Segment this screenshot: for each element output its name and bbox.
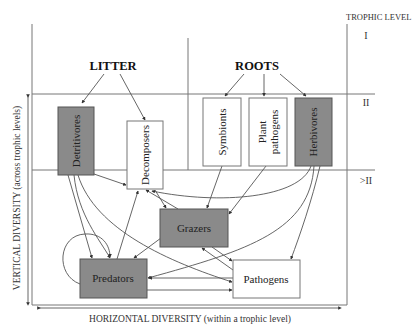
trophic-level-2: II — [363, 97, 370, 108]
food-web-diagram: TROPHIC LEVEL I II >II LITTER ROOTS — [0, 0, 415, 330]
trophic-level-header: TROPHIC LEVEL — [346, 12, 411, 22]
decomposers-label: Decomposers — [139, 125, 151, 185]
edge-litter-detritivores — [82, 74, 104, 103]
symbionts-label: Symbionts — [216, 108, 228, 155]
trophic-level-1: I — [364, 30, 367, 41]
edge-grazers-predators — [134, 238, 161, 258]
horizontal-axis-label: HORIZONTAL DIVERSITY (within a trophic l… — [89, 314, 291, 325]
herbivores-label: Herbivores — [307, 108, 319, 157]
edge-grazers-pathogens — [212, 247, 232, 261]
roots-heading: ROOTS — [235, 59, 279, 73]
node-decomposers: Decomposers — [127, 121, 163, 189]
edge-litter-decomposers — [120, 74, 145, 120]
edge-predators-decomposers — [117, 191, 138, 259]
edge-plant-pathogens-grazers — [229, 166, 266, 214]
edge-roots-symbionts — [225, 74, 244, 96]
edge-detritivores-decomposers — [94, 174, 126, 185]
vertical-axis-label: VERTICAL DIVERSITY (across trophic level… — [12, 106, 23, 290]
edge-herbivores-decomposers — [152, 166, 311, 198]
node-herbivores: Herbivores — [295, 98, 332, 166]
trophic-level-3: >II — [360, 175, 372, 186]
node-grazers: Grazers — [160, 209, 228, 247]
grazers-label: Grazers — [177, 222, 211, 234]
plant-pathogens-label-line2: pathogens — [268, 110, 280, 155]
predators-label: Predators — [92, 272, 134, 284]
litter-heading: LITTER — [89, 59, 137, 73]
edge-detritivores-predators-1 — [68, 175, 92, 258]
plant-pathogens-label-line1: Plant — [256, 121, 268, 144]
edge-herbivores-pathogens — [291, 166, 320, 259]
node-predators: Predators — [80, 259, 147, 298]
node-symbionts: Symbionts — [203, 98, 241, 166]
node-detritivores: Detritivores — [58, 107, 94, 175]
node-plant-pathogens: Plant pathogens — [249, 98, 287, 166]
pathogens-label: Pathogens — [243, 273, 288, 285]
node-pathogens: Pathogens — [233, 260, 300, 298]
edge-roots-herbivores — [280, 74, 306, 96]
edge-symbionts-grazers — [207, 166, 222, 208]
detritivores-label: Detritivores — [70, 115, 82, 168]
